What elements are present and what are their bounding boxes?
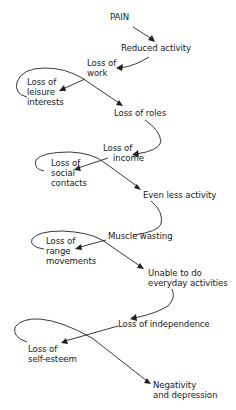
node-text: Loss of — [27, 77, 64, 87]
node-loss-of-independence: Loss of independence — [118, 319, 210, 329]
node-loss-of-range: Loss of range movements — [46, 236, 96, 266]
arrow-unable-to-independence — [134, 289, 173, 318]
node-text: Loss of — [46, 236, 96, 246]
node-text: everyday activities — [148, 278, 228, 288]
node-reduced-activity: Reduced activity — [121, 43, 191, 53]
arrow-reduced-to-work — [120, 57, 149, 68]
arrowhead-icon — [144, 378, 151, 384]
node-loss-of-leisure: Loss of leisure interests — [27, 77, 64, 107]
node-text: Muscle wasting — [108, 231, 173, 241]
node-text: Even less activity — [143, 190, 216, 200]
node-text: contacts — [51, 178, 87, 188]
arrowhead-icon — [116, 100, 123, 106]
node-text: Reduced activity — [121, 43, 191, 53]
node-text: leisure — [27, 87, 64, 97]
node-loss-of-work: Loss of work — [87, 58, 116, 78]
node-loss-of-self-esteem: Loss of self-esteem — [28, 344, 77, 364]
node-text: Negativity — [153, 380, 217, 390]
arrow-even-less-to-muscle — [133, 201, 162, 235]
node-text: Loss of — [28, 344, 77, 354]
node-pain: PAIN — [110, 12, 129, 22]
node-text: Unable to do — [148, 268, 228, 278]
arrowhead-icon — [116, 64, 123, 71]
node-text: self-esteem — [28, 354, 77, 364]
node-text: movements — [46, 256, 96, 266]
node-unable-everyday: Unable to do everyday activities — [148, 268, 228, 288]
node-loss-of-roles: Loss of roles — [114, 108, 166, 118]
node-even-less-activity: Even less activity — [143, 190, 216, 200]
arrowhead-icon — [137, 263, 144, 269]
node-loss-of-income: Loss of income — [103, 143, 144, 163]
node-text: Loss of — [103, 143, 144, 153]
arrow-pain-to-reduced — [133, 27, 152, 39]
node-text: Loss of roles — [114, 108, 166, 118]
node-text: income — [103, 153, 144, 163]
node-text: work — [87, 68, 116, 78]
node-text: Loss of independence — [118, 319, 210, 329]
node-loss-of-social: Loss of social contacts — [51, 158, 87, 188]
node-text: PAIN — [110, 12, 129, 22]
node-muscle-wasting: Muscle wasting — [108, 231, 173, 241]
node-text: Loss of — [51, 158, 87, 168]
node-text: and depression — [153, 390, 217, 400]
node-text: social — [51, 168, 87, 178]
node-negativity: Negativity and depression — [153, 380, 217, 400]
node-text: range — [46, 246, 96, 256]
arrowhead-icon — [148, 35, 155, 42]
arrow-work-to-leisure — [63, 79, 85, 89]
node-text: interests — [27, 97, 64, 107]
node-text: Loss of — [87, 58, 116, 68]
